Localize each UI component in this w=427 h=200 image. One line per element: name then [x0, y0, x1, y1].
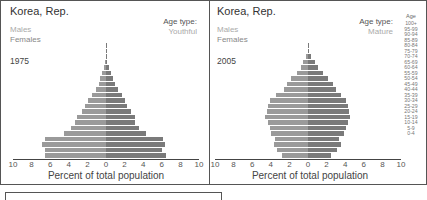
- bar-males-80-84: [301, 65, 308, 70]
- bar-females-20-24: [106, 131, 146, 136]
- bar-females-10-14: [308, 142, 341, 147]
- bar-males-10-14: [274, 142, 308, 147]
- x-tick-label: 6: [160, 160, 164, 169]
- bar-females-65-69: [106, 82, 115, 87]
- bar-females-75-79: [308, 71, 323, 76]
- bar-males-15-19: [275, 137, 308, 142]
- bar-females-15-19: [308, 137, 339, 142]
- x-tick-label: 4: [141, 160, 145, 169]
- bar-males-55-59: [276, 93, 308, 98]
- x-tick-label: 2: [85, 160, 89, 169]
- bar-males-30-34: [268, 120, 308, 125]
- bar-females-45-49: [106, 104, 127, 109]
- x-tick-label: 8: [231, 160, 235, 169]
- x-tick-label: 10: [195, 160, 204, 169]
- bar-males-20-24: [271, 131, 308, 136]
- bar-females-30-34: [308, 120, 348, 125]
- x-tick-label: 6: [250, 160, 254, 169]
- bar-females-60-64: [308, 87, 336, 92]
- pyramid-panel-2005: Korea, Rep. Males Females 2005 Age type:…: [209, 0, 427, 185]
- x-tick-label: 6: [48, 160, 52, 169]
- bar-females-80-84: [106, 65, 109, 70]
- bar-females-70-74: [106, 76, 113, 81]
- pyramid-panel-1975: Korea, Rep. Males Females 1975 Age type:…: [0, 0, 210, 185]
- bar-females-40-44: [106, 109, 131, 114]
- bar-females-25-29: [106, 126, 139, 131]
- bar-males-60-64: [96, 87, 106, 92]
- bar-females-55-59: [106, 93, 122, 98]
- bar-males-30-34: [75, 120, 106, 125]
- bar-females-90-94: [308, 54, 311, 59]
- bar-males-5-9: [45, 148, 106, 153]
- bar-females-40-44: [308, 109, 349, 114]
- bar-females-75-79: [106, 71, 111, 76]
- bar-males-65-69: [99, 82, 106, 87]
- x-tick-label: 8: [380, 160, 384, 169]
- bar-males-50-54: [88, 98, 106, 103]
- bar-males-40-44: [267, 109, 308, 114]
- bar-females-5-9: [106, 148, 162, 153]
- bar-females-95-99: [308, 49, 309, 54]
- bar-females-15-19: [106, 137, 163, 142]
- bar-females-10-14: [106, 142, 165, 147]
- bar-females-60-64: [106, 87, 118, 92]
- bar-females-25-29: [308, 126, 346, 131]
- bar-females-50-54: [106, 98, 125, 103]
- x-tick-label: 4: [269, 160, 273, 169]
- bar-females-35-39: [308, 115, 350, 120]
- bar-males-75-79: [297, 71, 308, 76]
- bar-males-10-14: [42, 142, 106, 147]
- bar-females-0-4: [308, 153, 331, 158]
- x-axis-label: Percent of total population: [1, 170, 211, 181]
- bar-females-80-84: [308, 65, 318, 70]
- bar-females-5-9: [308, 148, 337, 153]
- x-tick-label: 4: [343, 160, 347, 169]
- bar-females-0-4: [106, 153, 166, 158]
- bar-females-70-74: [308, 76, 328, 81]
- x-tick-label: 2: [122, 160, 126, 169]
- x-tick-label: 8: [29, 160, 33, 169]
- bar-males-50-54: [270, 98, 308, 103]
- empty-panel: [5, 192, 222, 200]
- bar-females-50-54: [308, 98, 346, 103]
- bar-females-35-39: [106, 115, 135, 120]
- bar-males-35-39: [77, 115, 106, 120]
- x-tick-label: 0: [306, 160, 310, 169]
- x-tick-label: 2: [287, 160, 291, 169]
- bar-males-65-69: [287, 82, 308, 87]
- bar-males-45-49: [268, 104, 308, 109]
- bar-males-60-64: [284, 87, 308, 92]
- bar-males-35-39: [265, 115, 308, 120]
- bar-males-0-4: [282, 153, 308, 158]
- x-axis-label: Percent of total population: [210, 170, 410, 181]
- bar-females-20-24: [308, 131, 344, 136]
- x-tick-label: 2: [324, 160, 328, 169]
- x-tick-label: 10: [397, 160, 406, 169]
- x-tick-label: 8: [178, 160, 182, 169]
- bar-males-25-29: [71, 126, 106, 131]
- x-tick-label: 0: [104, 160, 108, 169]
- bar-males-55-59: [92, 93, 106, 98]
- bar-males-20-24: [64, 131, 106, 136]
- bar-females-30-34: [106, 120, 135, 125]
- x-tick-label: 6: [362, 160, 366, 169]
- bar-males-0-4: [45, 153, 106, 158]
- x-tick-label: 10: [211, 160, 220, 169]
- bar-males-40-44: [82, 109, 106, 114]
- bar-females-55-59: [308, 93, 341, 98]
- x-tick-label: 4: [67, 160, 71, 169]
- bar-females-85-89: [308, 60, 315, 65]
- bar-males-5-9: [277, 148, 308, 153]
- bar-females-90-94: [106, 54, 107, 59]
- bar-males-70-74: [291, 76, 308, 81]
- bar-males-45-49: [85, 104, 106, 109]
- bar-females-65-69: [308, 82, 333, 87]
- bar-males-25-29: [270, 126, 308, 131]
- bar-females-45-49: [308, 104, 348, 109]
- bar-males-15-19: [45, 137, 106, 142]
- x-tick-label: 10: [9, 160, 18, 169]
- bar-females-85-89: [106, 60, 107, 65]
